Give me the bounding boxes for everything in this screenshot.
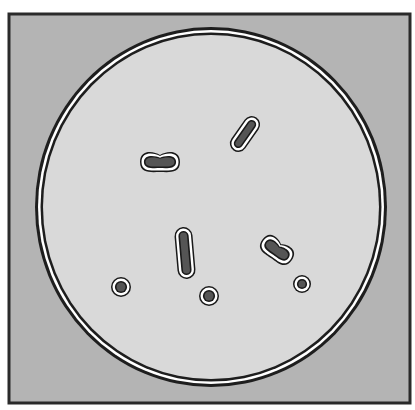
figure xyxy=(0,0,415,410)
cell-round-left xyxy=(111,277,131,297)
cell-round-right xyxy=(293,275,311,293)
dish xyxy=(35,27,387,387)
dish-diagram xyxy=(0,0,415,410)
cell-bean-upper-left xyxy=(140,152,180,172)
dish-interior xyxy=(43,35,379,379)
cell-round-bottom xyxy=(199,286,219,306)
